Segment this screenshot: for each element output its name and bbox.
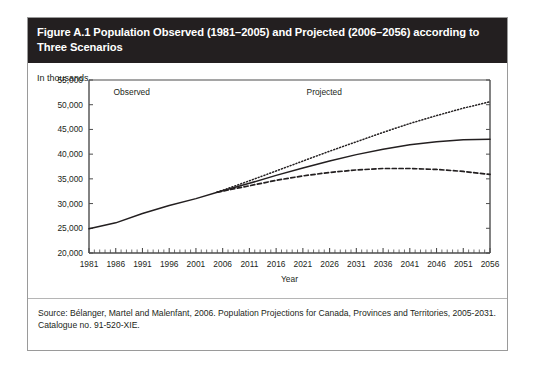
- x-tick-label: 2036: [374, 259, 393, 269]
- x-tick-label: 2001: [187, 259, 206, 269]
- x-tick-label: 2026: [320, 259, 339, 269]
- y-tick-label: 30,000: [57, 199, 83, 209]
- x-tick-label: 1981: [80, 259, 99, 269]
- figure-container: Figure A.1 Population Observed (1981–200…: [27, 17, 508, 351]
- figure-title: Figure A.1 Population Observed (1981–200…: [28, 18, 507, 63]
- chart-annotation: Projected: [307, 87, 343, 97]
- chart-annotation: Observed: [114, 87, 151, 97]
- y-tick-label: 40,000: [57, 149, 83, 159]
- x-tick-label: 2016: [267, 259, 286, 269]
- x-tick-label: 2021: [294, 259, 313, 269]
- x-tick-label: 2041: [400, 259, 419, 269]
- chart-plot-area: 20,00025,00030,00035,00040,00045,00050,0…: [28, 63, 509, 291]
- y-tick-label: 20,000: [57, 248, 83, 258]
- x-tick-label: 1991: [133, 259, 152, 269]
- x-tick-label: 1986: [106, 259, 125, 269]
- x-axis-title: Year: [281, 274, 298, 284]
- x-tick-label: 2051: [454, 259, 473, 269]
- series-line: [89, 192, 217, 229]
- y-tick-label: 50,000: [57, 100, 83, 110]
- y-tick-label: 25,000: [57, 223, 83, 233]
- x-tick-label: 2006: [213, 259, 232, 269]
- y-tick-label: 45,000: [57, 124, 83, 134]
- series-line: [217, 102, 490, 192]
- x-tick-label: 2031: [347, 259, 366, 269]
- x-tick-label: 2046: [427, 259, 446, 269]
- x-tick-label: 1996: [160, 259, 179, 269]
- x-tick-label: 2011: [240, 259, 258, 269]
- source-note: Source: Bélanger, Martel and Malenfant, …: [38, 308, 497, 331]
- chart-body: In thousands 20,00025,00030,00035,00040,…: [28, 63, 507, 291]
- y-tick-label: 55,000: [57, 75, 83, 85]
- figure-footer: Source: Bélanger, Martel and Malenfant, …: [28, 298, 507, 350]
- y-tick-label: 35,000: [57, 174, 83, 184]
- line-chart: 20,00025,00030,00035,00040,00045,00050,0…: [28, 63, 509, 291]
- x-tick-label: 2056: [481, 259, 500, 269]
